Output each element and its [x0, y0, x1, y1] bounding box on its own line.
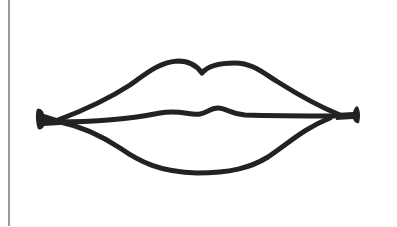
left-corner-tip — [36, 109, 60, 130]
lip-separation-line — [55, 108, 340, 122]
lower-lip-outline — [60, 118, 330, 173]
lips-illustration — [0, 0, 397, 227]
right-corner-tip — [336, 106, 360, 123]
upper-lip-outline — [58, 61, 340, 120]
lips-drawing — [0, 0, 397, 227]
